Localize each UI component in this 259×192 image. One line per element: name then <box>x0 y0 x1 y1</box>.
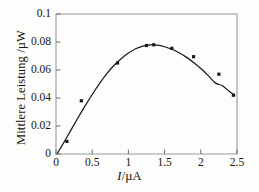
y-tick-label: 0.02 <box>0 119 51 131</box>
data-point-marker <box>145 44 148 47</box>
data-point-marker <box>217 73 220 76</box>
x-axis-title-unit: /µA <box>122 169 142 183</box>
figure-container: Mittlere Leistung /µW I/µA 00.020.040.06… <box>0 0 259 192</box>
x-tick-label: 1 <box>108 156 148 168</box>
data-point-marker <box>116 61 119 64</box>
data-point-marker <box>192 55 195 58</box>
y-axis-ticks <box>56 14 61 154</box>
x-tick-label: 0.5 <box>72 156 112 168</box>
data-point-marker <box>65 140 68 143</box>
x-tick-label: 2 <box>181 156 221 168</box>
axes-frame <box>56 14 237 154</box>
frame-border <box>56 14 237 154</box>
y-tick-label: 0.08 <box>0 35 51 47</box>
data-point-marker <box>152 43 155 46</box>
fitted-curve <box>57 45 234 153</box>
y-tick-label: 0.06 <box>0 63 51 75</box>
x-axis-title: I/µA <box>0 169 259 184</box>
data-point-marker <box>80 99 83 102</box>
y-tick-label: 0.1 <box>0 7 51 19</box>
data-point-markers <box>65 43 235 143</box>
x-tick-label: 1.5 <box>145 156 185 168</box>
x-axis-ticks <box>56 150 237 155</box>
data-point-marker <box>170 47 173 50</box>
data-point-marker <box>232 94 235 97</box>
x-tick-label: 2.5 <box>217 156 257 168</box>
data-layer <box>57 43 235 153</box>
y-tick-label: 0.04 <box>0 91 51 103</box>
x-tick-label: 0 <box>36 156 76 168</box>
